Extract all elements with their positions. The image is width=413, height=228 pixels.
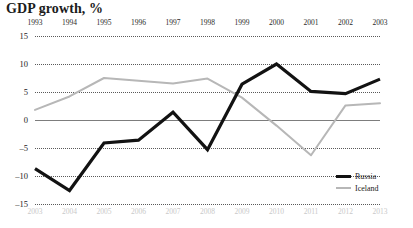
- x-tick-label: 2013: [365, 207, 395, 216]
- y-tick-label: 15: [10, 31, 28, 41]
- y-tick-label: –10: [10, 171, 28, 181]
- x-tick-label: 1996: [124, 18, 154, 27]
- gridline-0: [35, 120, 380, 121]
- y-tick-label: 5: [10, 87, 28, 97]
- legend: Russia Iceland: [336, 170, 379, 194]
- gridline--10: [35, 176, 380, 177]
- x-tick-label: 1997: [158, 18, 188, 27]
- x-tick-label: 2011: [296, 207, 326, 216]
- x-tick-label: 2009: [227, 207, 257, 216]
- gdp-growth-chart: GDP growth, % 19931994199519961997199819…: [0, 0, 413, 228]
- x-tick-label: 2006: [124, 207, 154, 216]
- x-tick-label: 2007: [158, 207, 188, 216]
- legend-item-iceland: Iceland: [336, 182, 379, 194]
- legend-label-iceland: Iceland: [355, 184, 379, 193]
- x-tick-label: 1993: [20, 18, 50, 27]
- x-tick-label: 1995: [89, 18, 119, 27]
- plot-area: [35, 36, 380, 204]
- page-title: GDP growth, %: [6, 1, 103, 17]
- x-tick-label: 2000: [262, 18, 292, 27]
- x-tick-label: 2002: [331, 18, 361, 27]
- x-tick-label: 2003: [20, 207, 50, 216]
- y-tick-label: 0: [10, 115, 28, 125]
- x-tick-label: 2001: [296, 18, 326, 27]
- x-tick-label: 2010: [262, 207, 292, 216]
- x-tick-label: 1998: [193, 18, 223, 27]
- gridline-10: [35, 64, 380, 65]
- x-tick-label: 1999: [227, 18, 257, 27]
- x-tick-label: 1994: [55, 18, 85, 27]
- gridline-15: [35, 36, 380, 37]
- gridline--5: [35, 148, 380, 149]
- x-tick-label: 2004: [55, 207, 85, 216]
- x-tick-label: 2012: [331, 207, 361, 216]
- y-tick-label: –5: [10, 143, 28, 153]
- legend-item-russia: Russia: [336, 170, 379, 182]
- x-tick-label: 2008: [193, 207, 223, 216]
- legend-label-russia: Russia: [355, 172, 376, 181]
- legend-swatch-iceland-icon: [336, 187, 351, 189]
- legend-swatch-russia-icon: [336, 175, 351, 178]
- gridline--15: [35, 204, 380, 205]
- gridline-5: [35, 92, 380, 93]
- x-tick-label: 2005: [89, 207, 119, 216]
- x-tick-label: 2003: [365, 18, 395, 27]
- y-tick-label: 10: [10, 59, 28, 69]
